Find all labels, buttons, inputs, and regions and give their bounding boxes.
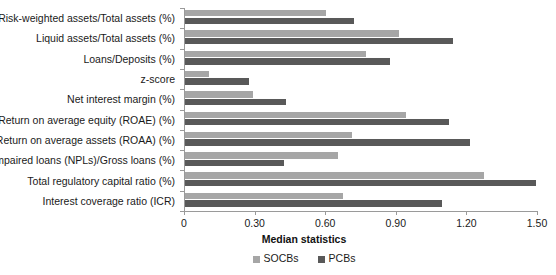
x-axis-tick [325,211,326,215]
bar-group [185,191,538,211]
chart-row: Risk-weighted assets/Total assets (%) [0,8,556,28]
legend-swatch-socbs-icon [253,256,260,263]
bar-socbs [185,193,343,199]
chart-row: Net interest margin (%) [0,89,556,109]
chart-row: Loans/Deposits (%) [0,49,556,69]
chart-row: Interest coverage ratio (ICR) [0,191,556,211]
y-axis-tick [180,8,184,9]
x-axis-tick [466,211,467,215]
x-axis-tick [255,211,256,215]
chart-row: z-score [0,69,556,89]
bar-socbs [185,10,326,16]
category-label: Interest coverage ratio (ICR) [43,195,175,206]
category-label: Liquid assets/Total assets (%) [36,33,175,44]
chart-row: Total regulatory capital ratio (%) [0,170,556,190]
category-label: Net interest margin (%) [67,94,175,105]
bar-pcbs [185,160,284,166]
bar-socbs [185,152,338,158]
category-label: Return on average assets (ROAA) (%) [0,134,175,145]
bar-chart: Risk-weighted assets/Total assets (%)Liq… [0,0,556,275]
bar-pcbs [185,200,442,206]
bar-socbs [185,112,406,118]
x-axis-line [184,211,538,212]
legend-label-socbs: SOCBs [264,252,299,264]
bar-group [185,150,538,170]
y-axis-tick [180,28,184,29]
bar-socbs [185,172,484,178]
bar-socbs [185,30,399,36]
bar-pcbs [185,99,286,105]
x-axis-tick-label: 1.20 [456,217,476,229]
y-axis-tick [180,110,184,111]
y-axis-tick [180,49,184,50]
chart-row: Return on average equity (ROAE) (%) [0,109,556,129]
bar-group [185,69,538,89]
category-label: z-score [141,74,175,85]
category-label: Risk-weighted assets/Total assets (%) [0,13,175,24]
y-axis-tick [180,170,184,171]
category-label: Total regulatory capital ratio (%) [27,175,175,186]
bar-socbs [185,91,253,97]
bar-pcbs [185,18,354,24]
bar-group [185,170,538,190]
category-label: Impaired loans (NPLs)/Gross loans (%) [0,155,175,166]
bar-pcbs [185,119,449,125]
y-axis-tick [180,69,184,70]
category-label: Return on average equity (ROAE) (%) [0,114,175,125]
x-axis-tick-label: 0.30 [244,217,264,229]
x-axis-title: Median statistics [0,233,556,245]
x-axis-tick-label: 1.50 [527,217,547,229]
bar-group [185,8,538,28]
x-axis-tick [396,211,397,215]
bar-pcbs [185,58,390,64]
bar-socbs [185,71,209,77]
chart-row: Impaired loans (NPLs)/Gross loans (%) [0,150,556,170]
y-axis-tick [180,191,184,192]
legend-label-pcbs: PCBs [329,252,356,264]
x-axis-tick [537,211,538,215]
legend-item-pcbs: PCBs [318,252,356,264]
chart-row: Return on average assets (ROAA) (%) [0,130,556,150]
x-axis-tick-label: 0.60 [315,217,335,229]
x-axis-tick-label: 0 [181,217,187,229]
legend-item-socbs: SOCBs [253,252,299,264]
bar-pcbs [185,139,470,145]
legend-swatch-pcbs-icon [318,256,325,263]
bar-group [185,89,538,109]
y-axis-tick [180,130,184,131]
bar-group [185,49,538,69]
chart-legend: SOCBs PCBs [0,252,556,264]
bar-group [185,130,538,150]
bar-socbs [185,51,366,57]
x-axis-tick-label: 0.90 [386,217,406,229]
bar-pcbs [185,38,453,44]
bar-group [185,28,538,48]
bar-pcbs [185,180,536,186]
chart-row: Liquid assets/Total assets (%) [0,28,556,48]
y-axis-tick [180,89,184,90]
category-label: Loans/Deposits (%) [83,53,175,64]
bar-socbs [185,132,352,138]
x-axis-title-text: Median statistics [262,233,347,245]
chart-rows: Risk-weighted assets/Total assets (%)Liq… [0,8,556,211]
bar-pcbs [185,78,249,84]
x-axis-tick [184,211,185,215]
bar-group [185,109,538,129]
y-axis-tick [180,150,184,151]
